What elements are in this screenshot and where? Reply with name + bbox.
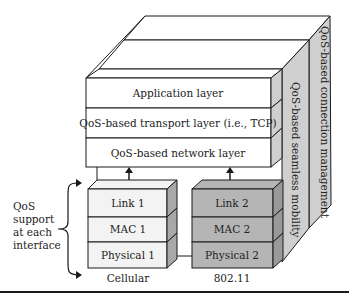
link1-label: Link 1	[111, 197, 144, 209]
cellular-label: Cellular	[107, 272, 150, 284]
outer-top-face	[124, 16, 330, 40]
physical1-label: Physical 1	[101, 249, 155, 261]
network-layer-label: QoS-based network layer	[111, 147, 247, 159]
transport-layer-label: QoS-based transport layer (i.e., TCP)	[79, 117, 276, 129]
annotation-line-4: interface	[13, 239, 61, 251]
annotation-line-2: support	[13, 213, 55, 225]
seamless-mobility-label: QoS-based seamless mobility	[290, 82, 302, 237]
middle-top-face	[99, 40, 309, 69]
annotation-line-1: QoS	[13, 200, 35, 212]
link2-label: Link 2	[215, 197, 248, 209]
wlan-label: 802.11	[214, 272, 251, 284]
bottom-rule	[0, 291, 349, 293]
front-top-face	[86, 69, 282, 78]
connection-management-label: QoS-based connection management	[319, 26, 331, 219]
mac2-label: MAC 2	[214, 223, 250, 235]
qos-stack-diagram: QoS-based connection management QoS-base…	[0, 0, 349, 301]
brace-icon	[58, 179, 82, 279]
application-layer-label: Application layer	[132, 87, 225, 99]
mac1-label: MAC 1	[110, 223, 146, 235]
annotation-line-3: at each	[13, 226, 52, 238]
physical2-label: Physical 2	[205, 249, 259, 261]
